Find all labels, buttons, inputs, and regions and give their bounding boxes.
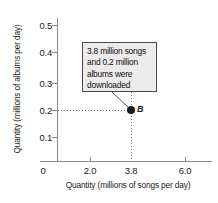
x-tick-label-6.0: 6.0 — [170, 165, 200, 176]
y-tick-0.3 — [52, 83, 57, 84]
data-point-b — [127, 106, 135, 114]
y-axis-title: Quantity (millions of albums per day) — [12, 19, 22, 159]
y-tick-label-0.2: 0.2 — [26, 105, 52, 116]
x-tick-label-0: 0 — [28, 165, 58, 176]
y-tick-0.5 — [52, 25, 57, 26]
y-tick-label-0.3: 0.3 — [26, 78, 52, 89]
data-point-b-label: B — [137, 104, 144, 114]
y-axis-line — [57, 18, 58, 162]
y-tick-label-0.4: 0.4 — [26, 47, 52, 58]
chart-figure: 0.5 0.4 0.3 0.2 0.1 0 2.0 3.8 6.0 Quanti… — [0, 0, 218, 203]
annotation-line-4: downloaded — [87, 80, 156, 91]
y-tick-label-0.5: 0.5 — [26, 20, 52, 31]
x-tick-label-3.8: 3.8 — [116, 165, 146, 176]
x-axis-line — [40, 161, 212, 162]
y-tick-label-0.1: 0.1 — [26, 132, 52, 143]
annotation-callout: 3.8 million songs and 0.2 million albums… — [82, 42, 157, 92]
y-tick-0.1 — [52, 137, 57, 138]
y-tick-0.4 — [52, 52, 57, 53]
x-tick-6.0 — [185, 157, 186, 162]
annotation-line-2: and 0.2 million — [87, 57, 156, 68]
annotation-line-3: albums were — [87, 69, 156, 80]
y-tick-0.2 — [52, 110, 57, 111]
x-tick-2.0 — [90, 157, 91, 162]
annotation-line-1: 3.8 million songs — [87, 46, 156, 57]
x-tick-label-2.0: 2.0 — [75, 165, 105, 176]
x-axis-title: Quantity (millions of songs per day) — [40, 180, 216, 190]
